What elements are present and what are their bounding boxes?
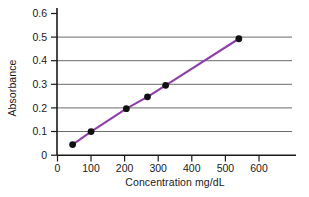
y-axis-line-group [51, 8, 57, 155]
x-tick-label-400: 400 [183, 162, 201, 174]
x-tick-label-500: 500 [217, 162, 235, 174]
data-point [69, 141, 76, 148]
x-axis-title: Concentration mg/dL [57, 176, 293, 188]
y-tick-label-0: 0 [41, 149, 47, 161]
y-tick-label-0.1: 0.1 [32, 125, 47, 137]
x-tick-label-600: 600 [250, 162, 268, 174]
y-tick-label-0.6: 0.6 [32, 7, 47, 19]
data-point [235, 35, 242, 42]
x-tick-label-200: 200 [116, 162, 134, 174]
data-point [88, 128, 95, 135]
calibration-curve-figure: Absorbance 0.6 0.5 0.4 0.3 0.2 0.1 [0, 0, 309, 197]
x-tick-label-100: 100 [82, 162, 100, 174]
plot-area: 0.6 0.5 0.4 0.3 0.2 0.1 0 0 100 200 300 … [0, 0, 309, 197]
x-tick-label-300: 300 [149, 162, 167, 174]
standard-curve-line [73, 39, 239, 145]
gridlines [57, 13, 292, 132]
data-point [123, 105, 130, 112]
x-tick-label-0: 0 [55, 162, 61, 174]
data-point [162, 82, 169, 89]
x-tick-labels: 0 100 200 300 400 500 600 [55, 162, 268, 174]
y-tick-label-0.2: 0.2 [32, 102, 47, 114]
x-axis-line-group [57, 155, 296, 161]
y-tick-label-0.3: 0.3 [32, 78, 47, 90]
data-point [144, 93, 151, 100]
y-tick-labels: 0.6 0.5 0.4 0.3 0.2 0.1 0 [32, 7, 47, 161]
y-tick-label-0.5: 0.5 [32, 31, 47, 43]
y-tick-label-0.4: 0.4 [32, 54, 47, 66]
